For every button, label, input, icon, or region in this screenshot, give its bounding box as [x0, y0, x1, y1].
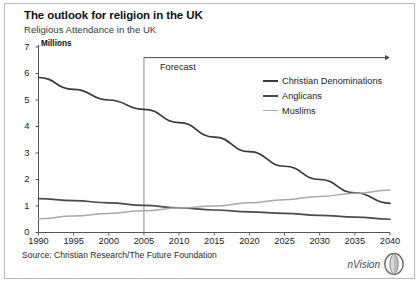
x-tick-label: 2005: [124, 236, 164, 246]
forecast-label: Forecast: [160, 62, 196, 72]
legend-swatch-icon: [263, 80, 278, 82]
series-line-muslims: [39, 190, 391, 219]
legend-label: Anglicans: [282, 91, 322, 101]
y-tick-label: 3: [14, 147, 30, 158]
x-tick-label: 2040: [370, 236, 410, 246]
x-tick-label: 2020: [229, 236, 269, 246]
y-tick-label: 6: [14, 67, 30, 78]
legend-swatch-icon: [263, 95, 278, 97]
series-line-anglicans: [39, 199, 391, 220]
x-tick-label: 2035: [335, 236, 375, 246]
lens-circle-icon: [381, 251, 407, 277]
legend-item-christian-denominations[interactable]: Christian Denominations: [263, 73, 382, 88]
y-tick-label: 1: [14, 200, 30, 211]
x-tick-label: 1995: [54, 236, 94, 246]
legend-label: Christian Denominations: [282, 76, 382, 86]
x-tick-label: 1990: [19, 236, 59, 246]
logo-text: nVision: [347, 259, 380, 270]
chart-legend: Christian DenominationsAnglicansMuslims: [263, 73, 382, 118]
x-tick-label: 2025: [265, 236, 305, 246]
legend-swatch-icon: [263, 110, 278, 111]
legend-item-muslims[interactable]: Muslims: [263, 103, 382, 118]
x-tick-label: 2015: [194, 236, 234, 246]
y-tick-label: 2: [14, 173, 30, 184]
y-tick-label: 5: [14, 94, 30, 105]
forecast-arrow-head-icon: [385, 55, 390, 60]
x-tick-label: 2030: [300, 236, 340, 246]
legend-label: Muslims: [282, 106, 316, 116]
source-note: Source: Christian Research/The Future Fo…: [22, 250, 217, 260]
y-tick-label: 7: [14, 41, 30, 52]
x-tick-label: 2010: [159, 236, 199, 246]
nvision-logo: nVision: [347, 251, 407, 277]
legend-item-anglicans[interactable]: Anglicans: [263, 88, 382, 103]
x-tick-label: 2000: [89, 236, 129, 246]
chart-card: The outlook for religion in the UK Relig…: [0, 0, 419, 285]
y-tick-label: 4: [14, 120, 30, 131]
